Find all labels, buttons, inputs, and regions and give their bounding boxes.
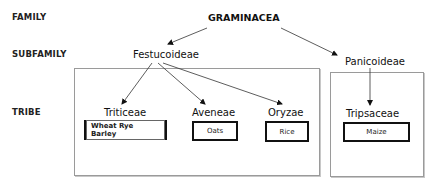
- members-text-tripsaceae: Maize: [366, 128, 386, 136]
- members-box-aveneae: Oats: [192, 121, 238, 141]
- members-text-oryzae: Rice: [280, 128, 295, 136]
- subfamily-node-festucoideae: Festucoideae: [133, 49, 199, 60]
- tribe-node-triticeae: Triticeae: [104, 107, 146, 118]
- members-box-triticeae: Wheat Rye Barley: [84, 120, 167, 140]
- members-text-triticeae: Wheat Rye Barley: [86, 120, 165, 140]
- tribe-node-tripsaceae: Tripsaceae: [346, 108, 399, 119]
- members-box-tripsaceae: Maize: [343, 122, 410, 142]
- tribe-node-oryzae: Oryzae: [268, 107, 303, 118]
- members-box-oryzae: Rice: [265, 121, 309, 142]
- connector-arrows: [0, 0, 438, 183]
- subfamily-node-panicoideae: Panicoideae: [345, 56, 405, 67]
- family-node-graminacea: GRAMINACEA: [208, 12, 280, 23]
- tribe-node-aveneae: Aveneae: [192, 107, 235, 118]
- members-text-aveneae: Oats: [207, 127, 223, 135]
